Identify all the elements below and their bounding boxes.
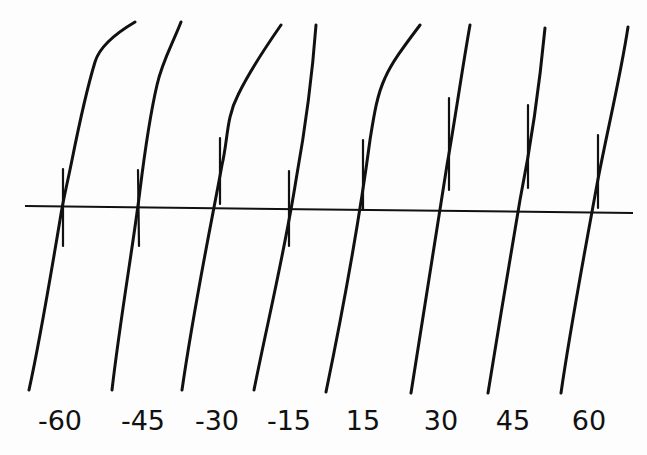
- tick-mark: [138, 170, 139, 246]
- angle-label-neg60: -60: [38, 405, 82, 436]
- angle-label-45: 45: [496, 405, 530, 436]
- angle-label-neg45: -45: [121, 405, 165, 436]
- angle-label-60: 60: [572, 405, 606, 436]
- angle-label-30: 30: [424, 405, 458, 436]
- angle-curve: [561, 27, 628, 393]
- angle-label-neg30: -30: [195, 405, 239, 436]
- angle-curve: [112, 22, 181, 390]
- horizontal-reference-line: [25, 206, 633, 213]
- angle-curve: [326, 25, 420, 392]
- angle-curve: [254, 25, 316, 390]
- diagram-canvas: -60 -45 -30 -15 15 30 45 60: [0, 0, 647, 455]
- curves-drawing: [0, 0, 647, 455]
- angle-label-15: 15: [346, 405, 380, 436]
- angle-curve: [411, 25, 470, 393]
- angle-label-neg15: -15: [267, 405, 311, 436]
